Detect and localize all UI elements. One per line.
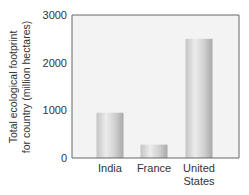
y-tick-label: 0 (61, 152, 67, 164)
y-axis-label-line-2: for country (million hectares) (20, 21, 32, 153)
x-tick-label: India (98, 162, 123, 174)
y-axis-label-line-1: Total ecological footprint (7, 31, 19, 144)
y-tick-label: 3000 (43, 9, 67, 21)
bar-chart: 0100020003000 IndiaFranceUnitedStates To… (0, 0, 249, 195)
x-tick-label: France (137, 162, 171, 174)
bar-united-states (186, 39, 213, 158)
bar-india (97, 113, 124, 158)
y-tick-label: 1000 (43, 104, 67, 116)
x-tick-label: United (183, 162, 215, 174)
bar-france (141, 145, 168, 158)
y-tick-label: 2000 (43, 57, 67, 69)
x-tick-label: States (183, 175, 215, 187)
